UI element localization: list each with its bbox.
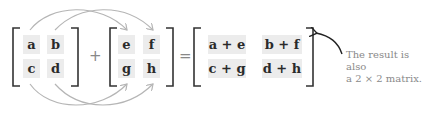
arc-b-to-f <box>55 10 153 30</box>
matrix-a-cell-d: d <box>47 59 64 78</box>
result-cell-c-plus-g: c + g <box>208 59 246 78</box>
annotation-arrow <box>316 33 342 54</box>
annotation-line-2: a 2 × 2 matrix. <box>346 73 431 85</box>
matrix-b-right-bracket <box>166 28 173 86</box>
result-cell-d-plus-h: d + h <box>262 59 302 78</box>
annotation-line-1: The result is also <box>346 49 431 73</box>
result-cell-a-plus-e: a + e <box>208 35 246 54</box>
matrix-a-right-bracket <box>71 28 78 86</box>
matrix-b-cell-g: g <box>118 59 135 78</box>
result-cell-b-plus-f: b + f <box>262 35 302 54</box>
plus-operator: + <box>89 47 102 65</box>
result-left-bracket <box>194 28 201 86</box>
matrix-b-cell-e: e <box>118 35 135 54</box>
matrix-b-cell-f: f <box>143 35 160 54</box>
matrix-a-left-bracket <box>13 28 20 86</box>
result-right-bracket <box>306 28 313 86</box>
arc-d-to-h <box>55 84 153 105</box>
equals-operator: = <box>179 47 192 65</box>
matrix-b-cell-h: h <box>143 59 160 78</box>
matrix-a-cell-b: b <box>47 35 64 54</box>
matrix-a-cell-a: a <box>23 35 40 54</box>
matrix-b-left-bracket <box>110 28 117 86</box>
matrix-a-cell-c: c <box>23 59 40 78</box>
arc-a-to-e <box>30 10 127 30</box>
annotation-text: The result is also a 2 × 2 matrix. <box>346 49 431 85</box>
arc-c-to-g <box>30 84 127 105</box>
